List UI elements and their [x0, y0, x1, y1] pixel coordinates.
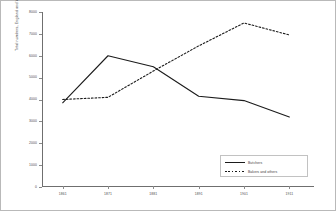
x-tick-label: 1871: [98, 192, 118, 196]
y-tick-label: 0: [23, 185, 37, 189]
x-tick-label: 1901: [234, 192, 254, 196]
x-tick-label: 1861: [53, 192, 73, 196]
y-tick-label: 3000: [23, 119, 37, 123]
legend-item-butchers: Butchers: [225, 158, 262, 167]
y-tick-label: 5000: [23, 75, 37, 79]
legend-swatch-dotted-icon: [225, 169, 245, 174]
x-tick-label: 1911: [279, 192, 299, 196]
y-tick-label: 1000: [23, 163, 37, 167]
y-tick-label: 6000: [23, 54, 37, 58]
series-line-butchers: [63, 56, 290, 117]
legend-label-butchers: Butchers: [248, 161, 262, 165]
series-line-bakers-and-others: [63, 23, 290, 100]
chart-frame: Total numbers, England and Wales 0100020…: [0, 0, 336, 211]
y-tick-label: 8000: [23, 10, 37, 14]
y-tick-mark: [39, 187, 42, 188]
y-tick-label: 2000: [23, 141, 37, 145]
legend-label-bakers-and-others: Bakers and others: [248, 170, 277, 174]
y-tick-label: 7000: [23, 32, 37, 36]
chart-legend: Butchers Bakers and others: [220, 155, 308, 177]
y-axis-title: Total numbers, England and Wales: [15, 0, 19, 51]
legend-swatch-solid-icon: [225, 160, 245, 165]
x-tick-label: 1891: [189, 192, 209, 196]
legend-item-bakers-and-others: Bakers and others: [225, 167, 277, 176]
x-tick-label: 1881: [143, 192, 163, 196]
y-tick-label: 4000: [23, 97, 37, 101]
